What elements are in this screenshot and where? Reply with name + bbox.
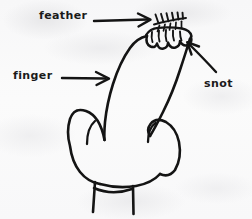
label-feather: feather xyxy=(39,10,87,21)
snot-arrow xyxy=(187,42,216,72)
middle-finger xyxy=(104,36,190,140)
label-finger: finger xyxy=(13,70,53,81)
feather-arrow xyxy=(94,14,151,27)
index-knuckle-line xyxy=(87,121,95,144)
label-snot: snot xyxy=(204,78,233,89)
snot-squiggle xyxy=(146,27,192,48)
fist xyxy=(68,110,180,187)
hand-drawing xyxy=(0,0,252,219)
drawing-canvas: feather finger snot xyxy=(0,0,252,219)
finger-arrow xyxy=(62,72,109,85)
